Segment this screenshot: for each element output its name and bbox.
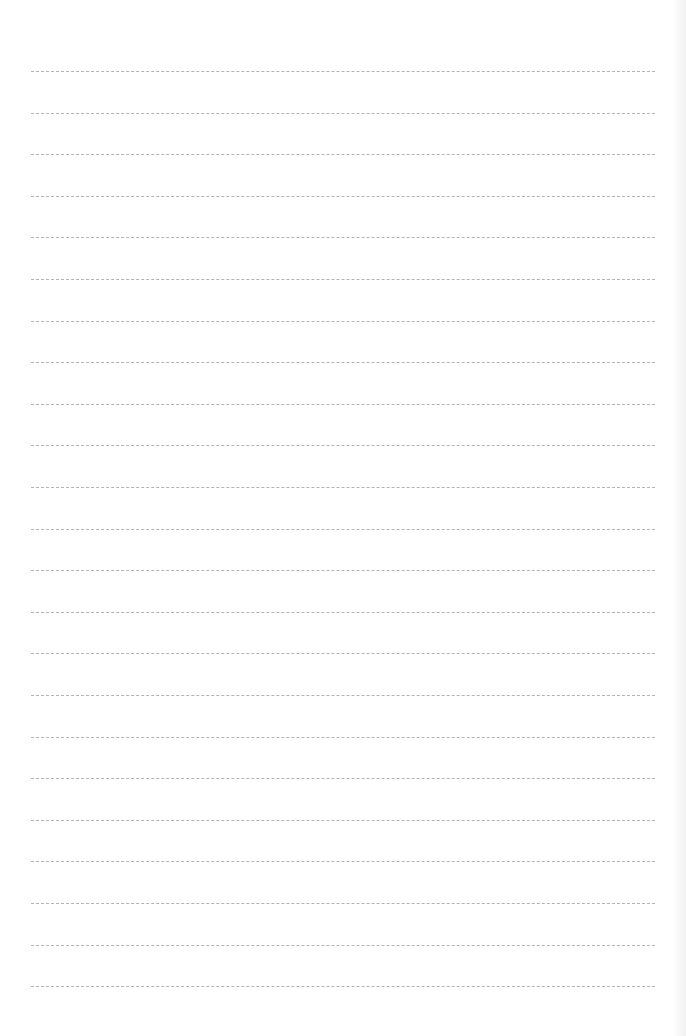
ruled-line: [31, 71, 655, 72]
ruled-line: [31, 653, 655, 654]
ruled-line: [31, 612, 655, 613]
ruled-line: [31, 737, 655, 738]
page-edge-shadow: [672, 0, 686, 1036]
ruled-line: [31, 237, 655, 238]
ruled-line: [31, 113, 655, 114]
ruled-line: [31, 778, 655, 779]
ruled-line: [31, 903, 655, 904]
ruled-line: [31, 404, 655, 405]
ruled-line: [31, 570, 655, 571]
ruled-line: [31, 861, 655, 862]
ruled-line: [31, 362, 655, 363]
ruled-line: [31, 695, 655, 696]
notebook-page: [0, 0, 686, 1036]
ruled-line: [31, 529, 655, 530]
ruled-line: [31, 945, 655, 946]
ruled-line: [31, 279, 655, 280]
ruled-line: [31, 820, 655, 821]
ruled-line: [31, 986, 655, 987]
ruled-line: [31, 321, 655, 322]
ruled-line: [31, 445, 655, 446]
ruled-line: [31, 154, 655, 155]
ruled-line: [31, 487, 655, 488]
ruled-line: [31, 196, 655, 197]
